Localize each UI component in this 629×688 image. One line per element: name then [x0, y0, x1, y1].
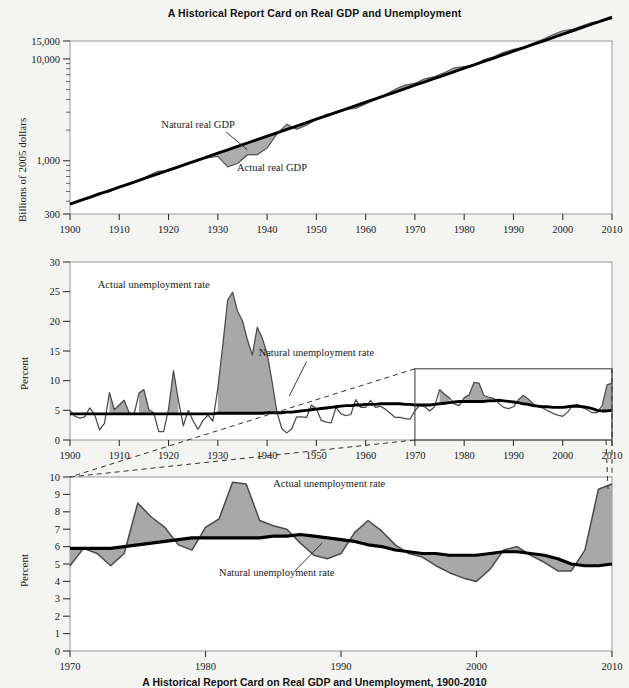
unemp-full-y-tick-label: 10: [50, 375, 61, 386]
unemp-full-y-tick-label: 30: [50, 257, 61, 268]
unemp-detail-x-tick-label: 1990: [331, 661, 352, 672]
gdp-y-axis-label: Billions of 2005 dollars: [16, 118, 28, 222]
unemp-detail-plot-area: [70, 477, 612, 651]
gdp-x-tick-label: 1920: [158, 224, 179, 235]
unemp-full-x-tick-label: 2000: [552, 450, 573, 461]
gdp-y-tick-label: 15,000: [31, 36, 60, 47]
gdp-y-tick-label: 10,000: [31, 54, 60, 65]
gdp-x-tick-label: 2000: [552, 224, 573, 235]
figure-title: A Historical Report Card on Real GDP and…: [0, 7, 629, 19]
figure-caption: A Historical Report Card on Real GDP and…: [0, 676, 629, 688]
unemp-detail-y-tick-label: 9: [55, 489, 60, 500]
unemp-detail-y-tick-label: 8: [55, 506, 60, 517]
gdp-x-tick-label: 1950: [306, 224, 327, 235]
gdp-x-tick-label: 1930: [207, 224, 228, 235]
unemp-detail-x-tick-label: 1980: [195, 661, 216, 672]
panel-unemployment-full: Percent 05101520253019001910192019301940…: [0, 255, 629, 460]
figure-page: A Historical Report Card on Real GDP and…: [0, 0, 629, 688]
unemp-full-x-tick-label: 1920: [158, 450, 179, 461]
unemp-detail-y-tick-label: 3: [55, 593, 60, 604]
unemp-full-y-axis-label: Percent: [18, 357, 30, 390]
unemp-detail-x-tick-label: 2000: [466, 661, 487, 672]
unemp-detail-y-tick-label: 1: [55, 628, 60, 639]
unemployment-detail-chart-svg: 01234567891019701980199020002010Actual u…: [0, 462, 629, 688]
gdp-x-tick-label: 1940: [257, 224, 278, 235]
gdp-y-tick-label: 1,000: [36, 155, 60, 166]
unemp-detail-x-tick-label: 2010: [602, 661, 623, 672]
gdp-x-tick-label: 1960: [355, 224, 376, 235]
unemp-full-natural-label: Natural unemployment rate: [259, 347, 375, 358]
panel-real-gdp: Billions of 2005 dollars 15,00010,0001,0…: [0, 22, 629, 242]
unemp-detail-y-tick-label: 6: [55, 541, 60, 552]
unemp-full-y-tick-label: 25: [50, 286, 61, 297]
gdp-x-tick-label: 1970: [404, 224, 425, 235]
unemp-full-x-tick-label: 2010: [602, 450, 623, 461]
unemp-full-x-tick-label: 1940: [257, 450, 278, 461]
gdp-x-tick-label: 1990: [503, 224, 524, 235]
unemp-full-x-tick-label: 1910: [109, 450, 130, 461]
unemp-full-actual-label: Actual unemployment rate: [98, 279, 210, 290]
gdp-natural-label: Natural real GDP: [161, 119, 235, 130]
unemp-full-y-tick-label: 5: [55, 405, 60, 416]
gdp-x-tick-label: 1900: [60, 224, 81, 235]
unemp-detail-x-tick-label: 1970: [60, 661, 81, 672]
unemp-detail-y-tick-label: 5: [55, 559, 60, 570]
unemployment-full-chart-svg: 0510152025301900191019201930194019501960…: [0, 255, 629, 460]
unemp-full-y-tick-label: 20: [50, 316, 61, 327]
unemp-full-x-tick-label: 1980: [454, 450, 475, 461]
gdp-y-tick-label: 300: [44, 209, 60, 220]
gdp-x-tick-label: 1910: [109, 224, 130, 235]
unemp-full-x-tick-label: 1970: [404, 450, 425, 461]
unemp-detail-y-tick-label: 0: [55, 646, 60, 657]
unemp-full-x-tick-label: 1930: [207, 450, 228, 461]
unemp-full-x-tick-label: 1950: [306, 450, 327, 461]
gdp-actual-label: Actual real GDP: [237, 162, 307, 173]
gdp-plot-area: [70, 41, 612, 214]
panel-unemployment-detail: Percent 01234567891019701980199020002010…: [0, 462, 629, 688]
unemp-detail-y-tick-label: 10: [50, 472, 61, 483]
unemp-detail-y-tick-label: 2: [55, 611, 60, 622]
unemp-detail-y-tick-label: 4: [55, 576, 61, 587]
unemp-detail-y-tick-label: 7: [55, 524, 60, 535]
unemp-full-x-tick-label: 1960: [355, 450, 376, 461]
unemp-full-y-tick-label: 0: [55, 435, 60, 446]
unemp-detail-y-axis-label: Percent: [18, 554, 30, 587]
gdp-x-tick-label: 1980: [454, 224, 475, 235]
unemp-full-x-tick-label: 1990: [503, 450, 524, 461]
unemp-detail-actual-label: Actual unemployment rate: [273, 478, 385, 489]
unemp-detail-natural-label: Natural unemployment rate: [219, 567, 335, 578]
gdp-x-tick-label: 2010: [602, 224, 623, 235]
unemp-full-x-tick-label: 1900: [60, 450, 81, 461]
unemp-full-y-tick-label: 15: [50, 346, 61, 357]
gdp-chart-svg: 15,00010,0001,00030019001910192019301940…: [0, 22, 629, 242]
